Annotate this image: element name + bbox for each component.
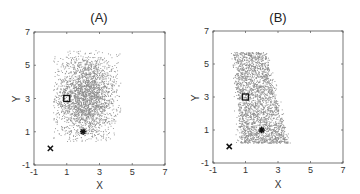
data-point — [260, 114, 261, 115]
data-point — [260, 101, 261, 102]
data-point — [94, 81, 95, 82]
data-point — [241, 132, 242, 133]
data-point — [67, 112, 68, 113]
data-point — [240, 53, 241, 54]
data-point — [86, 85, 87, 86]
data-point — [266, 89, 267, 90]
data-point — [282, 141, 283, 142]
data-point — [71, 96, 72, 97]
data-point — [277, 119, 278, 120]
data-point — [269, 106, 270, 107]
data-point — [248, 70, 249, 71]
data-point — [90, 112, 91, 113]
data-point — [257, 118, 258, 119]
data-point — [108, 133, 109, 134]
data-point — [53, 90, 54, 91]
data-point — [236, 134, 237, 135]
data-point — [235, 92, 236, 93]
data-point — [80, 89, 81, 90]
data-point — [250, 108, 251, 109]
data-point — [108, 137, 109, 138]
data-point — [272, 80, 273, 81]
data-point — [99, 125, 100, 126]
data-point — [94, 91, 95, 92]
data-point — [91, 99, 92, 100]
data-point — [75, 84, 76, 85]
data-point — [55, 76, 56, 77]
data-point — [57, 103, 58, 104]
data-point — [264, 95, 265, 96]
data-point — [280, 143, 281, 144]
data-point — [93, 115, 94, 116]
data-point — [58, 86, 59, 87]
data-point — [99, 133, 100, 134]
data-point — [242, 139, 243, 140]
data-point — [244, 115, 245, 116]
data-point — [93, 121, 94, 122]
data-point — [81, 62, 82, 63]
data-point — [280, 120, 281, 121]
data-point — [55, 122, 56, 123]
data-point — [261, 56, 262, 57]
data-point — [104, 81, 105, 82]
data-point — [74, 61, 75, 62]
data-point — [81, 103, 82, 104]
data-point — [73, 71, 74, 72]
data-point — [257, 101, 258, 102]
data-point — [60, 58, 61, 59]
data-point — [237, 91, 238, 92]
data-point — [259, 142, 260, 143]
data-point — [79, 67, 80, 68]
data-point — [73, 106, 74, 107]
data-point — [259, 122, 260, 123]
data-point — [69, 86, 70, 87]
data-point — [80, 80, 81, 81]
data-point — [79, 85, 80, 86]
data-point — [104, 122, 105, 123]
data-point — [87, 108, 88, 109]
data-point — [86, 78, 87, 79]
data-point — [277, 101, 278, 102]
data-point — [82, 125, 83, 126]
data-point — [263, 72, 264, 73]
data-point — [97, 69, 98, 70]
data-point — [99, 116, 100, 117]
data-point — [257, 97, 258, 98]
data-point — [102, 113, 103, 114]
data-point — [77, 96, 78, 97]
data-point — [280, 126, 281, 127]
data-point — [246, 109, 247, 110]
data-point — [234, 83, 235, 84]
data-point — [252, 66, 253, 67]
data-point — [86, 111, 87, 112]
data-point — [104, 86, 105, 87]
data-point — [268, 87, 269, 88]
data-point — [238, 106, 239, 107]
data-point — [281, 122, 282, 123]
data-point — [270, 99, 271, 100]
data-point — [261, 118, 262, 119]
data-point — [251, 83, 252, 84]
data-point — [89, 76, 90, 77]
data-point — [59, 104, 60, 105]
data-point — [240, 78, 241, 79]
data-point — [86, 131, 87, 132]
data-point — [252, 138, 253, 139]
data-point — [250, 84, 251, 85]
data-point — [250, 128, 251, 129]
data-point — [239, 95, 240, 96]
data-point — [241, 107, 242, 108]
data-point — [116, 54, 117, 55]
data-point — [92, 81, 93, 82]
data-point — [111, 118, 112, 119]
data-point — [89, 62, 90, 63]
data-point — [246, 95, 247, 96]
data-point — [74, 57, 75, 58]
data-point — [243, 69, 244, 70]
data-point — [109, 121, 110, 122]
data-point — [117, 114, 118, 115]
data-point — [108, 95, 109, 96]
data-point — [257, 74, 258, 75]
data-point — [276, 125, 277, 126]
data-point — [103, 82, 104, 83]
